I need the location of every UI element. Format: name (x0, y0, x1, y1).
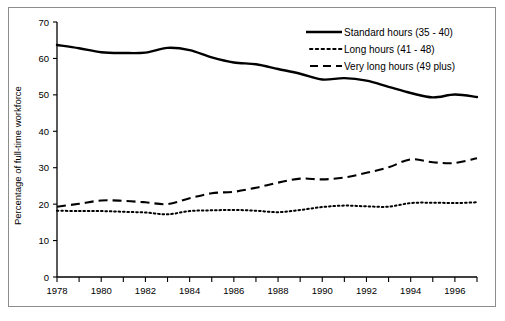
y-tick-label: 60 (38, 53, 49, 64)
y-axis-title: Percentage of full-time workforce (12, 86, 23, 225)
y-tick-label: 20 (38, 199, 49, 210)
y-tick-label: 10 (38, 235, 49, 246)
legend-label: Standard hours (35 - 40) (344, 27, 453, 38)
legend-label: Very long hours (49 plus) (344, 61, 455, 72)
line-chart: 010203040506070 197819801982198419861988… (0, 0, 505, 321)
y-axis-tick-labels: 010203040506070 (38, 17, 49, 283)
x-tick-label: 1992 (356, 285, 377, 296)
y-axis-title-text: Percentage of full-time workforce (12, 86, 23, 225)
x-tick-label: 1996 (444, 285, 465, 296)
x-tick-label: 1988 (267, 285, 288, 296)
series-line-2 (57, 158, 477, 206)
series-line-1 (57, 202, 477, 214)
x-tick-label: 1984 (179, 285, 200, 296)
x-tick-label: 1978 (46, 285, 67, 296)
y-tick-label: 0 (44, 272, 49, 283)
x-axis-tick-marks (57, 277, 477, 282)
x-tick-label: 1990 (312, 285, 333, 296)
y-tick-label: 40 (38, 126, 49, 137)
x-tick-label: 1986 (223, 285, 244, 296)
legend-label: Long hours (41 - 48) (344, 44, 435, 55)
x-tick-label: 1982 (135, 285, 156, 296)
x-tick-label: 1994 (400, 285, 421, 296)
y-tick-label: 70 (38, 17, 49, 28)
chart-legend: Standard hours (35 - 40)Long hours (41 -… (306, 27, 455, 72)
x-axis-tick-labels: 1978198019821984198619881990199219941996 (46, 285, 465, 296)
chart-figure: 010203040506070 197819801982198419861988… (0, 0, 505, 321)
y-tick-label: 30 (38, 162, 49, 173)
y-tick-label: 50 (38, 89, 49, 100)
x-tick-label: 1980 (91, 285, 112, 296)
